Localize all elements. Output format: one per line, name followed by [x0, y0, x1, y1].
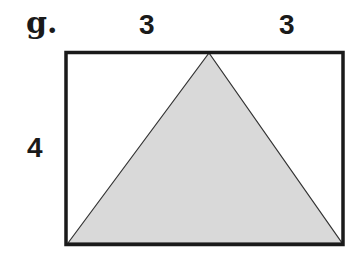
shaded-triangle	[68, 53, 342, 243]
geometry-figure	[0, 0, 362, 266]
